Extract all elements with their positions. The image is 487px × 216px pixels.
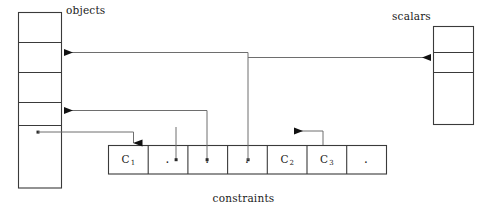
connector-to-objects-row4 bbox=[64, 111, 207, 146]
constraints-cell-6[interactable]: C3 bbox=[307, 153, 347, 165]
constraints-cell-2[interactable]: · bbox=[148, 156, 188, 170]
constraints-cell-7[interactable]: · bbox=[346, 156, 386, 170]
constraints-cell-3[interactable]: · bbox=[187, 156, 227, 170]
scalars-table-outline bbox=[434, 27, 474, 125]
scalars-table-label: scalars bbox=[392, 10, 431, 22]
constraints-cell-1-subscript: 1 bbox=[131, 159, 135, 167]
constraints-cell-5[interactable]: C2 bbox=[267, 153, 307, 165]
constraints-cell-5-subscript: 2 bbox=[289, 159, 293, 167]
scalars-table bbox=[434, 27, 474, 125]
constraints-cell-5-name: C bbox=[280, 153, 288, 165]
constraints-table-label: constraints bbox=[0, 192, 487, 204]
objects-table bbox=[19, 13, 62, 189]
constraints-cell-4[interactable]: · bbox=[227, 156, 267, 170]
connector-objects-to-constraints-c1 bbox=[38, 132, 134, 143]
diagram-canvas: objects scalars constraints C1···C2C3· bbox=[0, 0, 487, 216]
constraints-cell-6-subscript: 3 bbox=[329, 159, 333, 167]
connector-to-objects-row2 bbox=[64, 53, 250, 162]
objects-table-label: objects bbox=[66, 4, 105, 16]
constraints-cell-1[interactable]: C1 bbox=[108, 153, 148, 165]
diagram-vector-layer bbox=[0, 0, 487, 216]
constraints-cell-6-name: C bbox=[320, 153, 328, 165]
constraints-cell-1-name: C bbox=[122, 153, 130, 165]
objects-table-outline bbox=[19, 13, 62, 189]
connector-c3-loopback bbox=[294, 131, 323, 145]
